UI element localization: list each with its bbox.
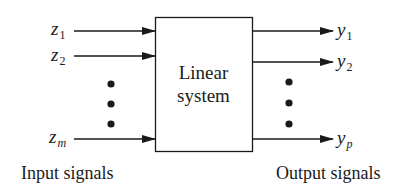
- input-subscript: 1: [59, 28, 65, 42]
- input-signals-caption: Input signals: [21, 164, 114, 182]
- output-subscript: 2: [346, 60, 352, 74]
- block-label-line1: Linear: [179, 61, 229, 84]
- input-subscript: 2: [59, 54, 65, 68]
- input-symbol: z: [51, 44, 58, 65]
- output-label-y2: y2: [337, 51, 352, 70]
- output-symbol: y: [337, 19, 345, 40]
- output-symbol: y: [337, 127, 345, 148]
- linear-system-label: Linear system: [155, 17, 252, 151]
- input-label-z2: z2: [51, 45, 65, 64]
- input-symbol: z: [49, 126, 56, 147]
- output-label-yp: yp: [337, 128, 352, 147]
- output-subscript: 1: [346, 29, 352, 43]
- input-symbol: z: [51, 18, 58, 39]
- block-label-line2: system: [177, 84, 230, 107]
- input-label-zm: zm: [49, 127, 66, 146]
- output-subscript: p: [346, 137, 352, 151]
- output-label-y1: y1: [337, 20, 352, 39]
- input-label-z1: z1: [51, 19, 65, 38]
- output-ellipsis-dots: [285, 78, 292, 127]
- output-symbol: y: [337, 50, 345, 71]
- input-subscript: m: [57, 136, 66, 150]
- output-signals-caption: Output signals: [276, 164, 381, 182]
- input-ellipsis-dots: [107, 80, 114, 127]
